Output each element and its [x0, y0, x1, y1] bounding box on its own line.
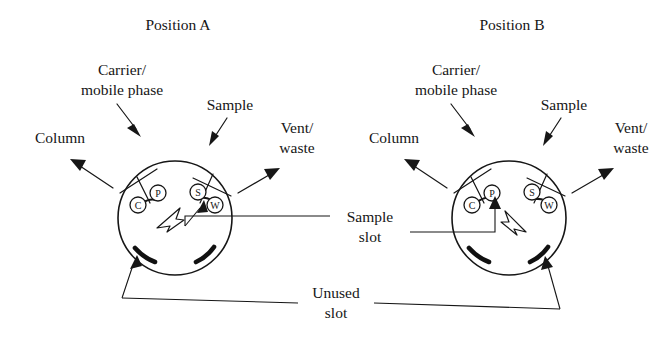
port-p-letter-b: P	[489, 188, 495, 199]
column-label-a: Column	[35, 129, 85, 146]
carrier-arrow-head-a	[127, 124, 141, 137]
carrier-arrow-head-b	[461, 124, 475, 137]
column-label-b: Column	[369, 129, 419, 146]
unused-slot-leader-left	[122, 298, 298, 303]
valve-position-diagram: Position A Carrier/ mobile phase Sample …	[0, 0, 672, 343]
panel-position-a: Position A Carrier/ mobile phase Sample …	[35, 16, 315, 275]
panel-position-b: Position B Carrier/ mobile phase Sample …	[369, 16, 649, 275]
sample-label-a: Sample	[207, 96, 254, 113]
vent-arrow-line-a	[238, 175, 269, 193]
sample-slot-label-line1: Sample	[347, 208, 394, 225]
unused-slot-leader-right-riser	[548, 266, 560, 309]
vent-label-a-line2: waste	[279, 139, 314, 156]
sample-slot-leader-left	[185, 216, 330, 226]
port-p-letter-a: P	[155, 188, 161, 199]
sample-slot-arrow-left	[197, 200, 208, 213]
port-s-letter-a: S	[195, 187, 201, 198]
sample-slot-leader-left-tip	[185, 208, 200, 226]
column-arrow-head-b	[404, 159, 420, 171]
column-arrow-head-a	[70, 159, 86, 171]
panel-title-b: Position B	[479, 16, 544, 33]
vent-arrow-head-a	[264, 168, 280, 180]
unused-slot-annotation: Unused slot	[122, 255, 560, 321]
unused-slot-arc-left-b	[469, 248, 489, 262]
carrier-label-a-line2: mobile phase	[81, 81, 163, 98]
unused-slot-leader-left-riser	[122, 265, 133, 298]
panel-title-a: Position A	[145, 16, 211, 33]
port-w-letter-a: W	[210, 200, 220, 211]
sample-label-b: Sample	[541, 96, 588, 113]
vent-arrow-line-b	[572, 175, 603, 193]
vent-label-b-line2: waste	[613, 139, 648, 156]
unused-slot-label-line2: slot	[325, 304, 348, 321]
carrier-label-a-line1: Carrier/	[98, 61, 147, 78]
port-c-letter-b: C	[469, 200, 476, 211]
port-s-letter-b: S	[529, 187, 535, 198]
rotor-pointer-b	[501, 211, 526, 235]
unused-slot-leader-right	[374, 303, 560, 309]
unused-slot-label-line1: Unused	[312, 284, 360, 301]
vent-label-a-line1: Vent/	[281, 119, 314, 136]
unused-slot-arrow-left	[130, 255, 142, 269]
port-w-letter-b: W	[544, 200, 554, 211]
diagram-canvas: Position A Carrier/ mobile phase Sample …	[0, 0, 672, 343]
sample-slot-label-line2: slot	[359, 228, 382, 245]
unused-slot-arc-right-a	[196, 247, 214, 262]
vent-arrow-head-b	[598, 168, 614, 180]
carrier-label-b-line2: mobile phase	[415, 81, 497, 98]
rotor-pointer-a	[157, 208, 184, 232]
vent-label-b-line1: Vent/	[615, 119, 648, 136]
port-c-letter-a: C	[135, 200, 142, 211]
column-arrow-line-a	[80, 166, 113, 188]
column-arrow-line-b	[414, 166, 447, 188]
carrier-label-b-line1: Carrier/	[432, 61, 481, 78]
